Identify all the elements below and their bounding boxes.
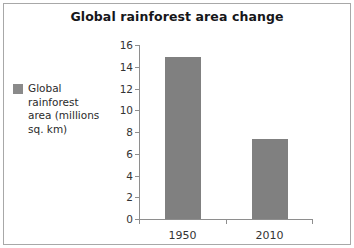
bar — [165, 57, 201, 219]
y-axis-tick — [135, 154, 139, 155]
y-axis-line — [139, 45, 140, 220]
plot-area: 0246810121416 19502010 — [139, 45, 313, 220]
y-axis-tick — [135, 176, 139, 177]
y-axis-tick — [135, 45, 139, 46]
legend-label: Global rainforest area (millions sq. km) — [28, 82, 99, 136]
y-axis-tick-label: 6 — [126, 148, 133, 160]
y-axis-tick-label: 10 — [120, 104, 133, 116]
y-axis-tick-label: 8 — [126, 126, 133, 138]
x-axis-tick — [226, 220, 227, 224]
legend-swatch-icon — [13, 84, 23, 94]
y-axis-tick — [135, 67, 139, 68]
y-axis-tick — [135, 110, 139, 111]
y-axis-tick-label: 14 — [120, 61, 133, 73]
y-axis-tick-label: 12 — [120, 83, 133, 95]
x-axis-tick-label: 1950 — [169, 229, 197, 242]
chart-screenshot: Global rainforest area change Global rai… — [0, 0, 354, 248]
y-axis-tick-label: 4 — [126, 170, 133, 182]
y-axis-tick — [135, 197, 139, 198]
y-axis-tick-label: 0 — [126, 213, 133, 225]
x-axis-tick — [139, 220, 140, 224]
x-axis-tick — [312, 220, 313, 224]
y-axis-tick-label: 2 — [126, 191, 133, 203]
bar — [252, 139, 288, 219]
y-axis-tick — [135, 132, 139, 133]
y-axis-tick — [135, 89, 139, 90]
y-axis-tick-label: 16 — [120, 39, 133, 51]
chart-legend: Global rainforest area (millions sq. km) — [13, 82, 125, 136]
chart-title: Global rainforest area change — [0, 9, 354, 24]
x-axis-tick-label: 2010 — [256, 229, 284, 242]
